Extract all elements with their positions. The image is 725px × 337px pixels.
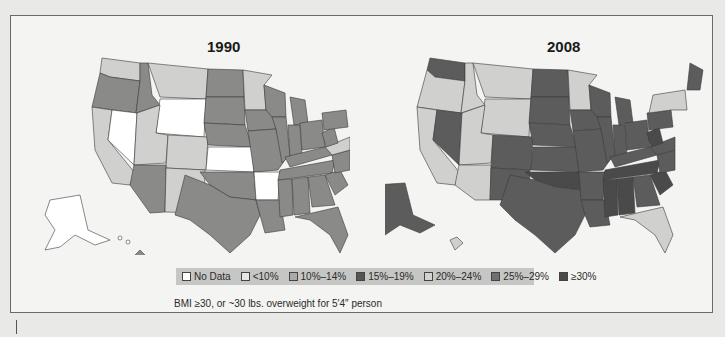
state-az [455, 165, 491, 200]
legend-swatch [356, 272, 365, 281]
state-oh [625, 120, 650, 150]
legend-swatch [559, 272, 568, 281]
legend-item-gte30: ≥30% [559, 271, 597, 282]
state-ak [45, 195, 110, 250]
state-co [166, 135, 208, 170]
state-sd [204, 97, 245, 125]
map-title-1990: 1990 [207, 38, 240, 55]
map-title-2008: 2008 [547, 38, 580, 55]
legend-item-20-24: 20%–24% [424, 271, 482, 282]
state-ak [385, 183, 435, 240]
state-wy [481, 99, 531, 137]
legend-swatch [424, 272, 433, 281]
state-in [613, 125, 627, 157]
state-hi [450, 237, 463, 250]
state-ar [579, 172, 605, 200]
state-ks [531, 147, 579, 172]
state-pa [322, 110, 348, 130]
state-mt [473, 63, 533, 99]
state-wy [156, 99, 206, 137]
map-2008 [385, 55, 705, 255]
legend-item-15-19: 15%–19% [356, 271, 414, 282]
state-az [130, 165, 166, 213]
state-ar [254, 172, 280, 200]
state-in [288, 125, 302, 157]
state-mi [290, 97, 308, 125]
legend: No Data <10% 10%–14% 15%–19% 20%–24% 25%… [176, 268, 534, 285]
state-al [292, 177, 310, 215]
state-ne [529, 123, 577, 147]
state-ms [278, 179, 293, 217]
state-me [687, 63, 703, 90]
state-mi [615, 97, 633, 125]
legend-item-no-data: No Data [182, 271, 231, 282]
state-ks [206, 147, 254, 172]
caption: BMI ≥30, or ~30 lbs. overweight for 5′4″… [174, 298, 382, 309]
legend-swatch [491, 272, 500, 281]
margin-tick [16, 320, 17, 334]
state-mt [148, 63, 208, 99]
state-al [617, 177, 635, 215]
state-nd [206, 69, 244, 97]
legend-item-25-29: 25%–29% [491, 271, 549, 282]
state-oh [300, 120, 325, 150]
state-co [491, 135, 533, 170]
state-ms [603, 179, 618, 217]
legend-swatch [182, 272, 191, 281]
state-sd [529, 97, 570, 125]
legend-item-10-14: 10%–14% [289, 271, 347, 282]
map-1990 [40, 55, 350, 255]
legend-swatch [289, 272, 298, 281]
legend-swatch [241, 272, 250, 281]
state-ny [649, 90, 687, 113]
state-ne [204, 123, 252, 147]
legend-item-lt10: <10% [241, 271, 279, 282]
state-hi [135, 250, 145, 255]
state-nd [531, 69, 569, 97]
